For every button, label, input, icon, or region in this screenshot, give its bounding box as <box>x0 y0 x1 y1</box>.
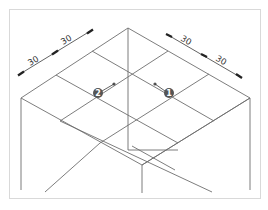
callout-1: 1 <box>153 82 174 98</box>
callout-number: 1 <box>166 89 172 98</box>
grid-lines-a <box>60 51 250 165</box>
dimension-label: 30 <box>179 33 193 47</box>
callout-number: 2 <box>95 89 101 98</box>
callout-2: 2 <box>93 82 116 98</box>
top-face-outline <box>21 28 250 165</box>
dimension-label: 30 <box>214 53 228 67</box>
isometric-diagram: 30 30 30 30 2 1 <box>0 0 268 210</box>
dimension-label: 30 <box>59 33 73 47</box>
dimension-label: 30 <box>26 54 40 68</box>
grid-lines-b <box>56 51 214 143</box>
left-dimension: 30 30 <box>18 30 93 76</box>
lower-construction-lines <box>45 121 212 192</box>
